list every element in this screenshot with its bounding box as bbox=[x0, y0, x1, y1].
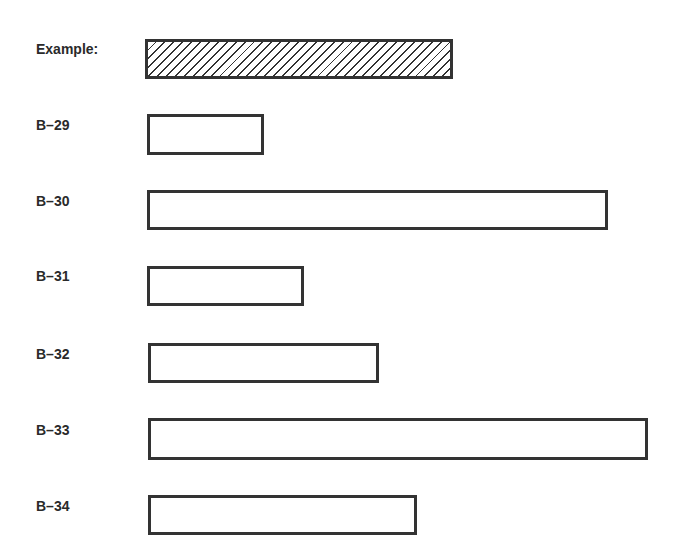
row-label-b33: B–33 bbox=[36, 422, 69, 438]
bar-b30 bbox=[147, 190, 608, 230]
row-label-b34: B–34 bbox=[36, 498, 69, 514]
bar-b32 bbox=[148, 343, 379, 383]
row-label-b32: B–32 bbox=[36, 346, 69, 362]
row-label-b31: B–31 bbox=[36, 268, 69, 284]
bar-b31 bbox=[147, 266, 304, 306]
row-label-b30: B–30 bbox=[36, 193, 69, 209]
legend-label: Example: bbox=[36, 41, 98, 57]
bar-b29 bbox=[147, 114, 264, 155]
bar-b34 bbox=[148, 495, 417, 535]
bar-b33 bbox=[148, 418, 648, 460]
row-label-b29: B–29 bbox=[36, 117, 69, 133]
legend-example-bar bbox=[145, 39, 453, 79]
